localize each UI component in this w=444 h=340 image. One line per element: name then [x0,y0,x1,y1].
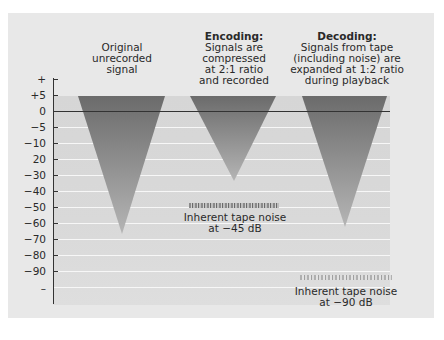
y-tick [53,223,58,224]
y-label: −40 [6,185,46,197]
y-label: +5 [6,89,46,101]
original-signal-caption: Original unrecorded signal [67,42,177,75]
y-tick [53,207,58,208]
caption-line: signal [67,64,177,75]
y-label: 20 [6,153,46,165]
y-label: −5 [6,121,46,133]
y-tick [53,127,58,128]
y-tick [53,255,58,256]
tape-noise-note-45db: Inherent tape noise at −45 dB [180,212,290,234]
y-tick [53,159,58,160]
y-tick [53,191,58,192]
y-tick [53,79,58,80]
tape-noise-note-90db: Inherent tape noise at −90 dB [291,286,401,308]
encoding-caption: Encoding: Signals are compressed at 2:1 … [178,31,290,86]
y-label: −80 [6,249,46,261]
y-tick [53,239,58,240]
y-tick [53,143,58,144]
tape-noise-bar-45db [189,203,279,208]
y-tick [53,95,58,96]
original-signal-triangle [78,96,165,234]
encoded-signal-triangle [190,96,276,181]
decoding-caption: Decoding: Signals from tape (including n… [282,31,412,86]
y-label: −60 [6,217,46,229]
y-label: −70 [6,233,46,245]
y-tick [53,271,58,272]
y-tick [53,175,58,176]
y-label: −90 [6,265,46,277]
tape-noise-bar-90db [300,275,392,280]
decoded-signal-triangle [302,96,387,227]
note-line: at −90 dB [291,297,401,308]
y-label: – [6,282,46,294]
y-label: −50 [6,201,46,213]
y-label: + [6,73,46,85]
caption-line: and recorded [178,75,290,86]
y-label: −30 [6,169,46,181]
y-label: 0 [6,105,46,117]
zero-db-line [53,111,390,112]
y-label: −10 [6,137,46,149]
note-line: at −45 dB [180,223,290,234]
caption-line: during playback [282,75,412,86]
